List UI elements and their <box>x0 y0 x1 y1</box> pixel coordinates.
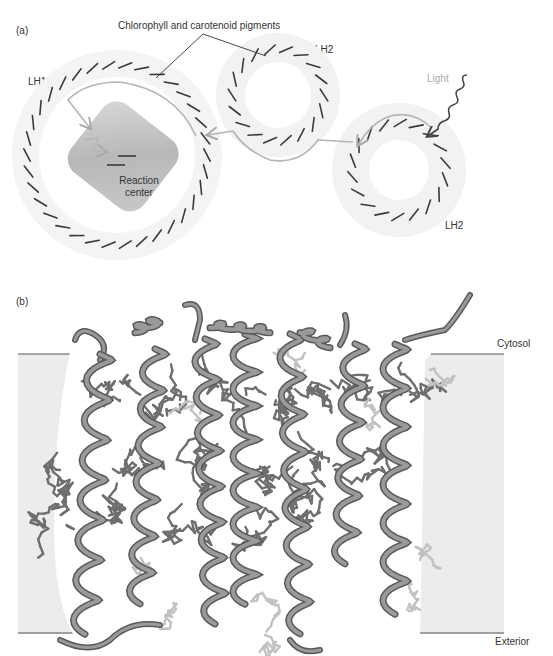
membrane-protein-structure <box>0 0 553 656</box>
